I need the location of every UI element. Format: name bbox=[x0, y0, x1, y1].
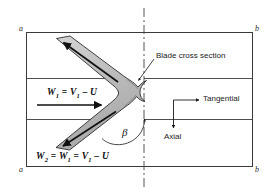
outlet-equals-sign-2: = bbox=[74, 151, 80, 161]
inlet-equals-sign: = bbox=[62, 87, 68, 97]
outlet-v-subscript: 1 bbox=[88, 156, 91, 163]
corner-label-top-right: b bbox=[255, 25, 259, 33]
inlet-velocity-equation: W1 = V1 – U bbox=[47, 88, 97, 99]
outlet-w2-subscript: 2 bbox=[45, 156, 48, 163]
outlet-w1-symbol: W bbox=[59, 151, 68, 161]
flow-arrow-upper-branch bbox=[64, 43, 119, 83]
inlet-minus-sign: – bbox=[82, 87, 87, 97]
corner-label-top-left: a bbox=[19, 25, 23, 33]
flow-arrow-lower-branch bbox=[63, 112, 116, 147]
outlet-w2-symbol: W bbox=[36, 151, 45, 161]
outlet-equals-sign-1: = bbox=[51, 151, 57, 161]
inlet-v-subscript: 1 bbox=[76, 92, 79, 99]
beta-angle-label: β bbox=[122, 127, 127, 138]
outlet-u-symbol: U bbox=[102, 151, 109, 161]
corner-label-bottom-right: b bbox=[255, 166, 259, 174]
blade-cascade-figure: a b a b W1 = V1 – U W2 = W1 = V1 – U Bla… bbox=[0, 0, 274, 195]
axial-label: Axial bbox=[164, 133, 181, 141]
inlet-u-symbol: U bbox=[90, 87, 97, 97]
outlet-w1-subscript: 1 bbox=[68, 156, 71, 163]
inlet-w-symbol: W bbox=[47, 87, 56, 97]
blade-label-leader-line bbox=[139, 59, 155, 81]
outlet-velocity-equation: W2 = W1 = V1 – U bbox=[36, 152, 109, 163]
outlet-minus-sign: – bbox=[94, 151, 99, 161]
tangential-label: Tangential bbox=[203, 95, 239, 103]
corner-label-bottom-left: a bbox=[19, 166, 23, 174]
inlet-w-subscript: 1 bbox=[56, 92, 59, 99]
blade-cross-section-label: Blade cross section bbox=[156, 52, 225, 60]
